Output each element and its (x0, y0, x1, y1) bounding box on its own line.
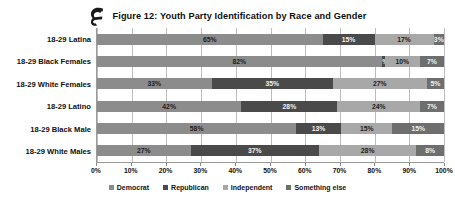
x-tick (166, 163, 167, 166)
bar-segment: 28% (319, 145, 416, 156)
bar-segment: 17% (375, 34, 434, 45)
legend-item[interactable]: Something else (286, 184, 346, 191)
bar-row: 82%1%10%7% (97, 50, 444, 72)
chart-plot-area: 18-29 Latina18-29 Black Females18-29 Whi… (0, 28, 455, 178)
legend-swatch-icon (163, 185, 168, 190)
legend-label: Independent (231, 184, 273, 191)
bar-segment: 24% (337, 101, 419, 112)
x-tick-label: 70% (333, 167, 347, 174)
x-tick-label: 10% (124, 167, 138, 174)
x-tick (131, 163, 132, 166)
figure-container: Figure 12: Youth Party Identification by… (0, 0, 455, 206)
legend-label: Democrat (117, 184, 149, 191)
bar-segment: 65% (97, 34, 323, 45)
bar-segment: 7% (420, 101, 444, 112)
x-tick (374, 163, 375, 166)
legend-item[interactable]: Republican (163, 184, 209, 191)
stacked-bar: 65%15%17%3% (97, 34, 444, 45)
circle-e-logo-icon (89, 7, 104, 26)
legend-label: Something else (294, 184, 346, 191)
x-tick-label: 60% (298, 167, 312, 174)
x-tick (200, 163, 201, 166)
bar-segment: 42% (97, 101, 241, 112)
bar-segment: 15% (323, 34, 375, 45)
stacked-bar: 58%13%15%15% (97, 123, 444, 134)
legend-swatch-icon (286, 185, 291, 190)
legend-item[interactable]: Democrat (109, 184, 149, 191)
bar-segment: 27% (333, 78, 427, 89)
x-tick-label: 100% (435, 167, 452, 174)
legend-swatch-icon (109, 185, 114, 190)
bar-segment: 27% (97, 145, 191, 156)
category-label: 18-29 Black Male (0, 118, 96, 141)
gridline (444, 28, 445, 162)
x-axis: 0%10%20%30%40%50%60%70%80%90%100% (96, 163, 444, 177)
x-tick (444, 163, 445, 166)
x-tick (270, 163, 271, 166)
legend-item[interactable]: Independent (223, 184, 273, 191)
page-title: Figure 12: Youth Party Identification by… (113, 11, 367, 21)
category-label: 18-29 Latina (0, 28, 96, 51)
figure-title-bar: Figure 12: Youth Party Identification by… (0, 4, 455, 28)
bar-row: 42%28%24%7% (97, 95, 444, 117)
x-tick (235, 163, 236, 166)
bar-segment: 15% (341, 123, 393, 134)
legend-label: Republican (171, 184, 209, 191)
bar-segment: 35% (212, 78, 333, 89)
category-label: 18-29 White Males (0, 141, 96, 164)
bar-segment: 82% (97, 56, 382, 67)
bar-segment: 5% (427, 78, 444, 89)
stacked-bar: 82%1%10%7% (97, 56, 444, 67)
bar-segment: 15% (392, 123, 444, 134)
bar-row: 65%15%17%3% (97, 28, 444, 50)
x-tick-label: 80% (368, 167, 382, 174)
x-tick (96, 163, 97, 166)
bar-segment: 8% (416, 145, 444, 156)
x-tick-label: 30% (194, 167, 208, 174)
x-tick (340, 163, 341, 166)
bar-segment: 58% (97, 123, 296, 134)
chart-legend: DemocratRepublicanIndependentSomething e… (0, 184, 455, 191)
bar-segment: 33% (97, 78, 212, 89)
bar-segment: 37% (191, 145, 319, 156)
bar-segment: 28% (241, 101, 337, 112)
bar-segment: 3% (434, 34, 444, 45)
x-tick-label: 90% (402, 167, 416, 174)
stacked-bar: 42%28%24%7% (97, 101, 444, 112)
x-tick-label: 40% (228, 167, 242, 174)
bars-region: 65%15%17%3%82%1%10%7%33%35%27%5%42%28%24… (96, 28, 444, 163)
category-label: 18-29 White Females (0, 73, 96, 96)
bar-segment: 13% (296, 123, 341, 134)
stacked-bar: 33%35%27%5% (97, 78, 444, 89)
category-axis: 18-29 Latina18-29 Black Females18-29 Whi… (0, 28, 96, 163)
bar-row: 58%13%15%15% (97, 117, 444, 139)
legend-swatch-icon (223, 185, 228, 190)
category-label: 18-29 Black Females (0, 51, 96, 74)
x-tick (409, 163, 410, 166)
x-tick-label: 0% (91, 167, 101, 174)
bar-segment: 10% (385, 56, 420, 67)
bar-row: 33%35%27%5% (97, 73, 444, 95)
stacked-bar: 27%37%28%8% (97, 145, 444, 156)
x-tick-label: 50% (263, 167, 277, 174)
x-tick (305, 163, 306, 166)
category-label: 18-29 Latino (0, 96, 96, 119)
bar-rows: 65%15%17%3%82%1%10%7%33%35%27%5%42%28%24… (97, 28, 444, 162)
bar-row: 27%37%28%8% (97, 140, 444, 162)
bar-segment: 7% (420, 56, 444, 67)
x-tick-label: 20% (159, 167, 173, 174)
